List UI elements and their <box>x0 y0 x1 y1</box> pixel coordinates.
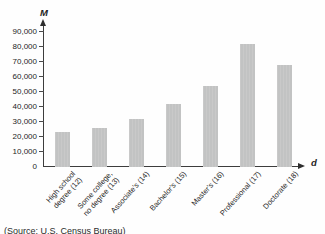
y-tick-mark <box>39 76 44 77</box>
y-tick-label: 60,000 <box>13 72 37 81</box>
x-category-label: Professional (17) <box>219 170 263 218</box>
y-axis-arrow-icon <box>40 19 46 26</box>
y-tick-label: 0 <box>33 162 37 171</box>
bar <box>240 44 255 167</box>
y-tick-label: 10,000 <box>13 147 37 156</box>
bar <box>203 86 218 167</box>
y-tick-mark <box>39 31 44 32</box>
x-category-label: Master's (16) <box>190 170 225 208</box>
bar <box>55 132 70 167</box>
y-tick-mark <box>39 136 44 137</box>
x-category-label: Bachelor's (15) <box>149 170 189 213</box>
y-tick-mark <box>39 91 44 92</box>
y-tick-label: 50,000 <box>13 87 37 96</box>
bar <box>166 104 181 167</box>
y-tick-mark <box>39 46 44 47</box>
bar <box>129 119 144 167</box>
y-tick-label: 20,000 <box>13 132 37 141</box>
y-tick-label: 90,000 <box>13 27 37 36</box>
x-axis-arrow-icon <box>298 163 305 169</box>
y-axis-variable-label: M <box>40 7 48 18</box>
bar <box>92 128 107 167</box>
y-tick-mark <box>39 106 44 107</box>
x-axis-variable-label: d <box>311 157 317 168</box>
y-tick-mark <box>39 151 44 152</box>
x-category-label: Doctorate (18) <box>261 170 299 211</box>
income-by-education-bar-chart: M d 010,00020,00030,00040,00050,00060,00… <box>0 0 325 234</box>
bar <box>277 65 292 167</box>
y-tick-label: 30,000 <box>13 117 37 126</box>
source-credit: (Source: U.S. Census Bureau) <box>4 226 126 234</box>
y-tick-mark <box>39 61 44 62</box>
y-tick-label: 80,000 <box>13 42 37 51</box>
y-tick-label: 40,000 <box>13 102 37 111</box>
y-tick-label: 70,000 <box>13 57 37 66</box>
y-tick-mark <box>39 121 44 122</box>
